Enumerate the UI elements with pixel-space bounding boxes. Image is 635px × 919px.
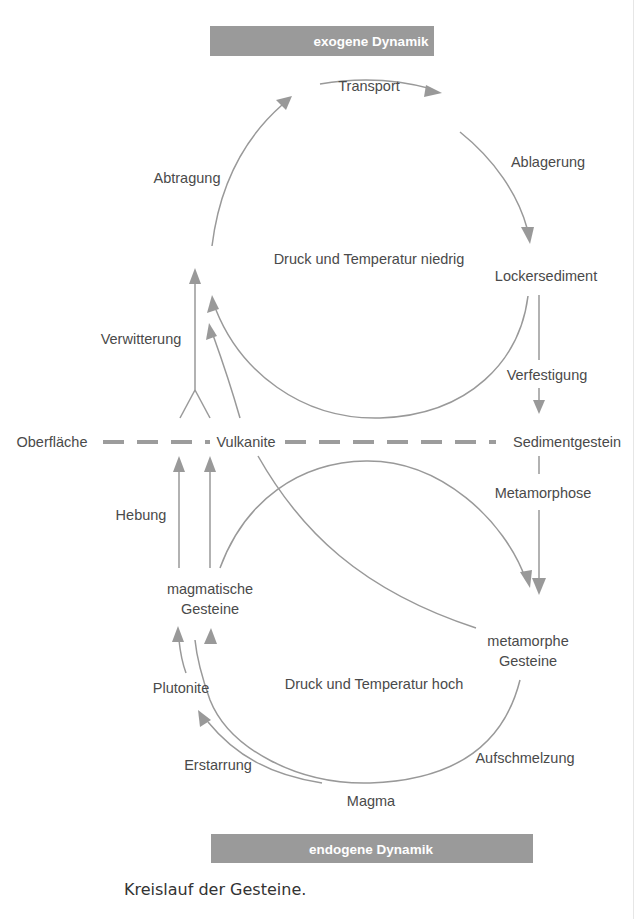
metamorphe-gesteine-label-line2: Gesteine xyxy=(499,653,557,669)
exogene-dynamik-band: exogene Dynamik xyxy=(210,26,434,56)
erstarrung-label: Erstarrung xyxy=(184,757,252,773)
arrowhead-icon xyxy=(532,578,546,595)
lower-center-label: Druck und Temperatur hoch xyxy=(285,676,464,692)
verfestigung-label: Verfestigung xyxy=(507,367,588,383)
plutonite-label: Plutonite xyxy=(153,680,209,696)
vulkanite-label: Vulkanite xyxy=(216,434,275,450)
lockersediment-label: Lockersediment xyxy=(495,268,597,284)
arrowhead-icon xyxy=(204,456,216,472)
arrowhead-icon xyxy=(533,400,545,414)
arrowhead-icon xyxy=(189,268,201,284)
ablagerung-arrow xyxy=(460,132,527,228)
oberflaeche-label: Oberfläche xyxy=(17,434,88,450)
arrowhead-icon xyxy=(520,570,532,588)
exogene-dynamik-label: exogene Dynamik xyxy=(314,34,429,49)
arrowhead-icon xyxy=(204,628,217,644)
arrowhead-icon xyxy=(206,323,217,340)
verwitterung-branch-left xyxy=(180,390,195,418)
magmatische-gesteine-label-line2: Gesteine xyxy=(181,601,239,617)
arrowhead-icon xyxy=(207,295,219,313)
metamorphe-gesteine-label-line1: metamorphe xyxy=(487,633,568,649)
arrowhead-icon xyxy=(521,227,534,244)
endogene-dynamik-band: endogene Dynamik xyxy=(211,834,533,863)
rock-cycle-diagram: exogene Dynamik endogene Dynamik xyxy=(0,0,635,919)
aufschmelzung-label: Aufschmelzung xyxy=(475,750,574,766)
magma-label: Magma xyxy=(347,793,396,809)
arrowhead-icon xyxy=(198,710,211,727)
arrowhead-icon xyxy=(172,626,184,642)
transport-label: Transport xyxy=(338,78,400,94)
arrowhead-icon xyxy=(173,456,185,472)
metamorphose-label: Metamorphose xyxy=(495,485,592,501)
plutonite-arrow xyxy=(179,640,186,673)
verwitterung-branch-right xyxy=(195,390,210,418)
upper-cycle-return-arc xyxy=(216,296,528,418)
magmatische-gesteine-label-line1: magmatische xyxy=(167,581,253,597)
figure-caption: Kreislauf der Gesteine. xyxy=(124,880,306,899)
verwitterung-label: Verwitterung xyxy=(101,331,182,347)
ablagerung-label: Ablagerung xyxy=(511,154,585,170)
abtragung-arrow xyxy=(212,105,282,246)
hebung-label: Hebung xyxy=(116,507,167,523)
magmatische-to-metamorphe-arc xyxy=(220,461,526,580)
arrowhead-icon xyxy=(424,85,442,97)
endogene-dynamik-label: endogene Dynamik xyxy=(309,842,433,857)
upper-center-label: Druck und Temperatur niedrig xyxy=(274,251,465,267)
abtragung-label: Abtragung xyxy=(154,170,221,186)
sedimentgestein-label: Sedimentgestein xyxy=(513,434,621,450)
